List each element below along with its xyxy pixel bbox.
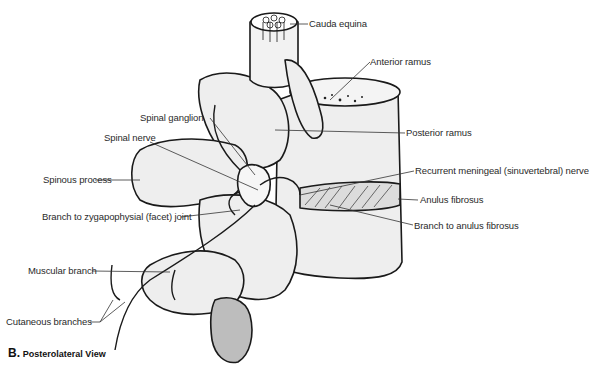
cutaneous-nerve bbox=[111, 265, 120, 300]
label-spinal-nerve: Spinal nerve bbox=[104, 132, 156, 143]
view-letter: B. bbox=[8, 346, 20, 360]
label-spinous-process: Spinous process bbox=[43, 174, 112, 185]
label-spinal-ganglion: Spinal ganglion bbox=[140, 112, 203, 123]
label-posterior-ramus: Posterior ramus bbox=[406, 127, 472, 138]
view-title: Posterolateral View bbox=[23, 349, 106, 359]
label-muscular-branch: Muscular branch bbox=[28, 265, 97, 276]
figure-caption: B. Posterolateral View bbox=[8, 346, 106, 360]
label-anulus-fibrosus: Anulus fibrosus bbox=[420, 194, 483, 205]
intervertebral-disc bbox=[300, 182, 400, 211]
label-cutaneous-branches: Cutaneous branches bbox=[6, 316, 92, 327]
label-anterior-ramus: Anterior ramus bbox=[370, 56, 431, 67]
spinal-ganglion bbox=[238, 165, 271, 206]
label-cauda-equina: Cauda equina bbox=[309, 18, 367, 29]
inferior-articular-process bbox=[211, 298, 252, 363]
label-branch-to-facet-joint: Branch to zygapophysial (facet) joint bbox=[42, 211, 191, 222]
label-branch-to-anulus-fibrosus: Branch to anulus fibrosus bbox=[414, 220, 519, 231]
label-recurrent-meningeal-nerve: Recurrent meningeal (sinuvertebral) nerv… bbox=[415, 165, 589, 176]
